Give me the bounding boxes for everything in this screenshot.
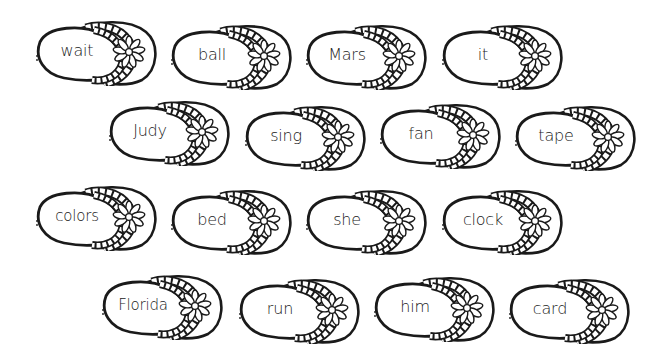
flip-flop-word-card-wait: wait [34, 18, 158, 86]
flip-flop-word-card-run: run [237, 276, 361, 344]
flip-flop-word-card-tape: tape [513, 103, 637, 171]
sight-word-label: tape [517, 121, 595, 151]
flip-flop-word-card-card: card [507, 276, 631, 344]
sight-word-label: run [241, 294, 319, 324]
sight-word-label: wait [38, 36, 116, 66]
sight-word-label: Florida [104, 290, 182, 320]
flip-flop-word-card-colors: colors [34, 183, 158, 251]
sight-word-label: sing [247, 121, 325, 151]
sight-word-label: Mars [308, 40, 386, 70]
flip-flop-word-card-fan: fan [378, 101, 502, 169]
flip-flop-word-card-florida: Florida [100, 272, 224, 340]
sight-word-label: colors [38, 201, 116, 231]
sight-word-label: card [511, 294, 589, 324]
flip-flop-word-card-him: him [372, 274, 496, 342]
flip-flop-word-card-clock: clock [440, 187, 564, 255]
flip-flop-word-card-ball: ball [169, 22, 293, 90]
sight-word-label: it [444, 40, 522, 70]
sight-word-label: bed [173, 205, 251, 235]
flip-flop-word-card-judy: Judy [107, 98, 231, 166]
sight-word-label: Judy [111, 116, 189, 146]
sight-word-label: clock [444, 205, 522, 235]
sight-word-label: him [376, 292, 454, 322]
flip-flop-word-card-she: she [304, 187, 428, 255]
flip-flop-word-card-bed: bed [169, 187, 293, 255]
flip-flop-word-card-sing: sing [243, 103, 367, 171]
flip-flop-word-card-mars: Mars [304, 22, 428, 90]
sight-word-label: ball [173, 40, 251, 70]
sight-word-label: she [308, 205, 386, 235]
sight-word-label: fan [382, 119, 460, 149]
flip-flop-word-card-it: it [440, 22, 564, 90]
